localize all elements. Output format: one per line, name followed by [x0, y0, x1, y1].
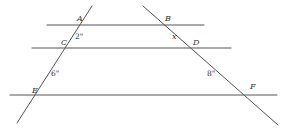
transversal-ace [17, 6, 92, 123]
point-label-d: D [192, 38, 200, 47]
segment-label-bd: x [172, 32, 177, 41]
point-label-b: B [164, 14, 171, 23]
point-label-a: A [76, 14, 83, 23]
segment-label-ac: 2" [75, 32, 83, 41]
point-label-e: E [31, 86, 38, 95]
point-label-f: F [249, 82, 256, 91]
segment-label-df: 8" [207, 69, 215, 78]
point-label-c: C [61, 38, 67, 47]
parallel-lines-diagram: A B C D E F 2" x 6" 8" [0, 0, 284, 128]
transversal-bdf [143, 6, 278, 125]
segment-label-ce: 6" [51, 69, 59, 78]
